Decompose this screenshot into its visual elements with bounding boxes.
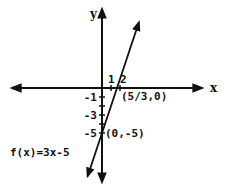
x-tick-label: 1 <box>108 73 115 86</box>
point-annotation: (0,-5) <box>105 127 145 140</box>
x-axis-label: x <box>210 81 218 95</box>
y-tick-label: -3 <box>84 109 97 122</box>
y-axis-label: y <box>89 7 98 21</box>
y-tick-label: -1 <box>84 91 98 104</box>
function-label: f(x)=3x-5 <box>10 146 70 159</box>
point-annotation: (5/3,0) <box>121 90 167 103</box>
function-graph: x y 12-1-3-5 (5/3,0)(0,-5) f(x)=3x-5 <box>0 0 227 188</box>
y-tick-label: -5 <box>84 127 97 140</box>
